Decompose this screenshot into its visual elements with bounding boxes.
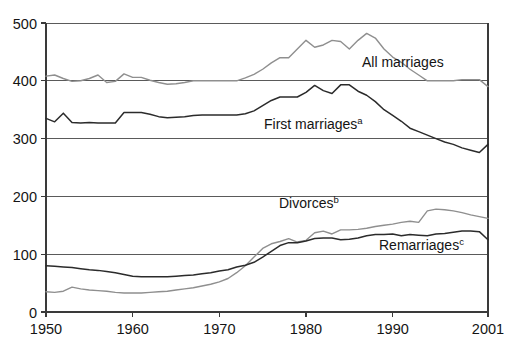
y-tick-label-100: 100: [13, 247, 37, 263]
x-tick-label-2001: 2001: [472, 321, 504, 337]
annotation-footnote-marker: c: [459, 236, 464, 247]
chart-figure: 0100200300400500 19501960197019801990200…: [0, 0, 517, 350]
x-tick-label-1980: 1980: [290, 321, 322, 337]
x-tick-label-1970: 1970: [203, 321, 235, 337]
annotation-footnote-marker: b: [333, 194, 338, 205]
y-tick-label-200: 200: [13, 189, 37, 205]
annotation-divorces: Divorcesb: [279, 194, 339, 211]
marriages-divorces-line-chart: 0100200300400500 19501960197019801990200…: [0, 0, 517, 350]
annotation-all-marriages: All marriages: [362, 54, 444, 70]
y-tick-label-400: 400: [13, 73, 37, 89]
annotation-text: First marriages: [264, 116, 357, 132]
annotation-text: Remarriages: [379, 237, 459, 253]
y-tick-label-0: 0: [29, 305, 37, 321]
annotation-text: Divorces: [279, 195, 333, 211]
annotation-remarriages: Remarriagesc: [379, 236, 464, 253]
annotation-text: All marriages: [362, 54, 444, 70]
y-axis-tick-labels: 0100200300400500: [13, 16, 37, 321]
y-tick-label-500: 500: [13, 16, 37, 32]
x-axis-tick-labels: 195019601970198019902001: [30, 321, 504, 337]
annotation-footnote-marker: a: [357, 115, 363, 126]
y-tick-label-300: 300: [13, 131, 37, 147]
x-tick-label-1950: 1950: [30, 321, 62, 337]
x-tick-label-1960: 1960: [117, 321, 149, 337]
series-annotations: All marriagesFirst marriagesaDivorcesbRe…: [264, 54, 464, 253]
annotation-first-marriages: First marriagesa: [264, 115, 363, 132]
x-tick-label-1990: 1990: [377, 321, 409, 337]
